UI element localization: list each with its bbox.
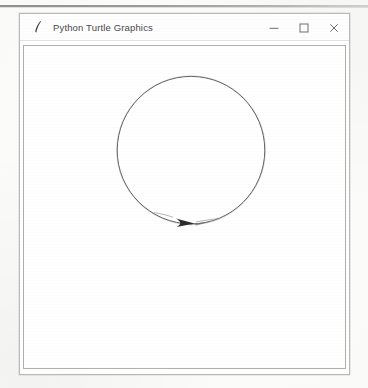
scan-artifact-line-soft — [0, 7, 368, 8]
close-button[interactable] — [319, 14, 349, 41]
turtle-drawing-canvas[interactable] — [23, 45, 346, 369]
window-title-text: Python Turtle Graphics — [53, 22, 153, 33]
maximize-button[interactable] — [289, 14, 319, 41]
turtle-drawing — [24, 46, 345, 368]
python-turtle-feather-icon — [30, 19, 46, 35]
window-controls-group — [259, 14, 349, 41]
maximize-icon — [298, 22, 310, 34]
minimize-icon — [268, 22, 280, 34]
window-title-bar[interactable]: Python Turtle Graphics — [20, 14, 349, 41]
turtle-graphics-window: Python Turtle Graphics — [19, 13, 350, 375]
close-icon — [328, 22, 340, 34]
turtle-circle-path — [117, 76, 266, 225]
minimize-button[interactable] — [259, 14, 289, 41]
